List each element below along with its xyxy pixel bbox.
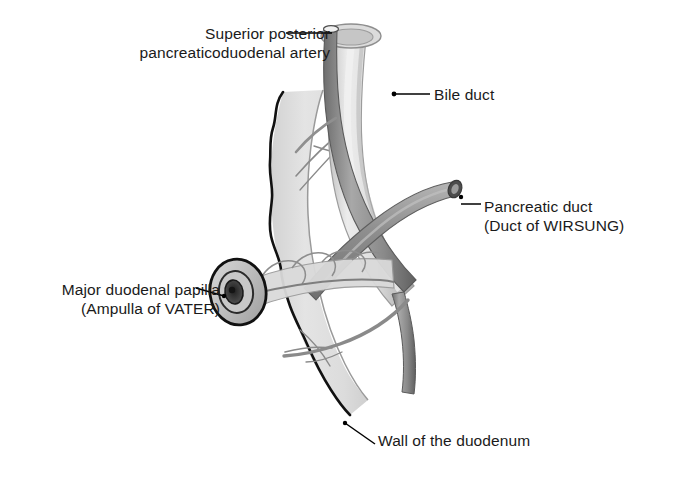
papilla-label-line-2: (Ampulla of VATER)	[62, 299, 220, 318]
pancreatic-duct-label-line-2: (Duct of WIRSUNG)	[484, 216, 624, 235]
artery-label-line-1: Superior posterior	[140, 24, 330, 43]
anatomical-diagram: Superior posterior pancreaticoduodenal a…	[0, 0, 682, 488]
leader-line-duodenal-wall	[343, 421, 375, 444]
papilla-orifice	[229, 287, 235, 293]
label-bile-duct: Bile duct	[434, 85, 494, 104]
pancreatic-duct-label-line-1: Pancreatic duct	[484, 197, 624, 216]
bile-duct-label-line-1: Bile duct	[434, 85, 494, 104]
papilla-label-line-1: Major duodenal papilla	[62, 280, 220, 299]
label-wall-of-the-duodenum: Wall of the duodenum	[378, 431, 530, 450]
leader-line-pancreatic-duct	[459, 195, 481, 204]
anatomy-illustration	[0, 0, 682, 488]
label-major-duodenal-papilla: Major duodenal papilla (Ampulla of VATER…	[62, 280, 220, 318]
artery-lower-limb	[392, 292, 416, 394]
duodenal-wall-label-line-1: Wall of the duodenum	[378, 431, 530, 450]
artery-label-line-2: pancreaticoduodenal artery	[140, 43, 330, 62]
leader-line-bile-duct	[392, 92, 430, 97]
label-pancreatic-duct: Pancreatic duct (Duct of WIRSUNG)	[484, 197, 624, 235]
label-superior-posterior-pancreaticoduodenal-artery: Superior posterior pancreaticoduodenal a…	[140, 24, 330, 62]
